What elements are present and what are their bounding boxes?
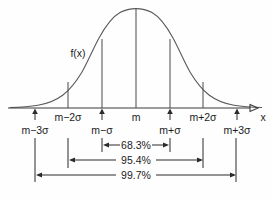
curve-label-fx: f(x) <box>70 47 85 59</box>
tick-label-m-minus-sigma: m−σ <box>91 124 113 136</box>
distribution-diagram: f(x) x m−2σ m m+2σ m−3σ m−σ m+σ m+3σ 68.… <box>0 0 273 200</box>
tick-label-m-plus-2sigma: m+2σ <box>189 111 217 123</box>
normal-distribution-figure: f(x) x m−2σ m m+2σ m−3σ m−σ m+σ m+3σ 68.… <box>0 0 273 200</box>
tick-arrow-m-plus-sigma <box>167 109 173 121</box>
tick-label-m-plus-sigma: m+σ <box>159 124 181 136</box>
tick-label-m-plus-3sigma: m+3σ <box>223 124 251 136</box>
tick-label-m-minus-2sigma: m−2σ <box>54 111 82 123</box>
x-axis-arrowhead <box>250 105 258 112</box>
tick-arrow-m-plus-3sigma <box>234 109 240 121</box>
interval-label-683: 68.3% <box>121 139 151 151</box>
interval-label-997: 99.7% <box>121 169 151 181</box>
tick-label-m: m <box>132 111 141 123</box>
axis-label-x: x <box>260 111 266 123</box>
interval-label-954: 95.4% <box>121 154 151 166</box>
tick-arrow-m-minus-sigma <box>99 109 105 121</box>
tick-label-m-minus-3sigma: m−3σ <box>21 124 49 136</box>
tick-arrow-m-minus-3sigma <box>32 109 38 121</box>
